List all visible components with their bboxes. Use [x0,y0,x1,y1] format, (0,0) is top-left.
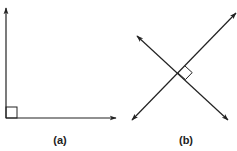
panel-b-label: (b) [179,134,193,146]
line-nw-se [137,36,228,120]
right-angle-marker [178,66,192,80]
panel-b: (b) [132,13,236,146]
line-sw-ne [132,13,236,120]
panel-a-label: (a) [53,134,67,146]
diagram-canvas: (a) (b) [0,0,237,151]
right-angle-marker [6,107,17,118]
panel-a: (a) [6,8,116,146]
